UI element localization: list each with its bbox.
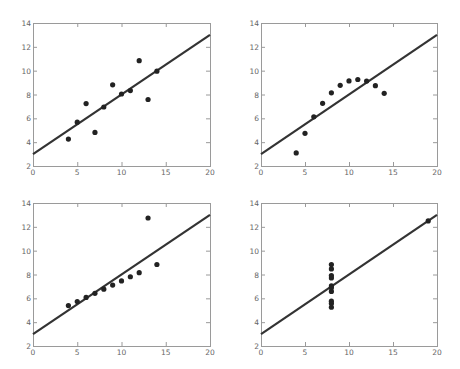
x-tick-label: 10 bbox=[117, 168, 127, 177]
y-tick-label: 2 bbox=[26, 342, 31, 351]
anscombe-quartet-figure: 051015202468101214 051015202468101214 05… bbox=[0, 0, 460, 369]
x-tick-label: 5 bbox=[303, 348, 308, 357]
x-tick-label: 0 bbox=[31, 348, 36, 357]
data-point bbox=[329, 301, 334, 306]
y-tick-label: 12 bbox=[249, 223, 259, 232]
data-point bbox=[373, 83, 378, 88]
data-point bbox=[66, 136, 71, 141]
x-tick-label: 0 bbox=[259, 348, 264, 357]
x-tick-label: 10 bbox=[344, 348, 354, 357]
data-point bbox=[346, 78, 351, 83]
y-tick-label: 4 bbox=[26, 138, 31, 147]
x-tick-label: 15 bbox=[161, 168, 171, 177]
y-tick-label: 14 bbox=[249, 19, 259, 28]
data-point bbox=[92, 130, 97, 135]
data-point bbox=[355, 77, 360, 82]
x-tick-label: 0 bbox=[259, 168, 264, 177]
regression-line bbox=[261, 35, 437, 154]
x-tick-label: 20 bbox=[432, 348, 442, 357]
data-point bbox=[154, 262, 159, 267]
data-point bbox=[329, 273, 334, 278]
data-point bbox=[110, 283, 115, 288]
y-tick-label: 14 bbox=[249, 199, 259, 208]
data-point bbox=[329, 90, 334, 95]
y-tick-label: 10 bbox=[21, 67, 31, 76]
data-point bbox=[364, 78, 369, 83]
x-tick-label: 15 bbox=[388, 168, 398, 177]
x-tick-label: 20 bbox=[205, 168, 215, 177]
data-point bbox=[311, 114, 316, 119]
data-point bbox=[302, 131, 307, 136]
data-point bbox=[329, 285, 334, 290]
x-tick-label: 5 bbox=[75, 348, 80, 357]
data-point bbox=[110, 82, 115, 87]
y-tick-label: 8 bbox=[26, 271, 31, 280]
x-tick-label: 20 bbox=[432, 168, 442, 177]
y-tick-label: 4 bbox=[254, 138, 259, 147]
data-point bbox=[128, 274, 133, 279]
y-tick-label: 6 bbox=[254, 114, 259, 123]
x-tick-label: 10 bbox=[117, 348, 127, 357]
x-tick-label: 15 bbox=[388, 348, 398, 357]
scatter-panel-4: 051015202468101214 bbox=[249, 199, 442, 357]
data-point bbox=[382, 91, 387, 96]
y-tick-label: 6 bbox=[26, 294, 31, 303]
x-tick-label: 15 bbox=[161, 348, 171, 357]
data-point bbox=[145, 97, 150, 102]
data-point bbox=[119, 278, 124, 283]
data-point bbox=[128, 88, 133, 93]
data-point bbox=[145, 215, 150, 220]
y-tick-label: 6 bbox=[254, 294, 259, 303]
data-point bbox=[329, 266, 334, 271]
scatter-panel-3: 051015202468101214 bbox=[21, 199, 215, 357]
data-point bbox=[75, 120, 80, 125]
data-point bbox=[66, 303, 71, 308]
data-point bbox=[101, 287, 106, 292]
scatter-panel-2: 051015202468101214 bbox=[249, 19, 442, 177]
y-tick-label: 6 bbox=[26, 114, 31, 123]
data-point bbox=[137, 270, 142, 275]
data-point bbox=[75, 299, 80, 304]
y-tick-label: 10 bbox=[249, 247, 259, 256]
data-point bbox=[154, 69, 159, 74]
data-point bbox=[320, 101, 325, 106]
data-point bbox=[92, 291, 97, 296]
y-tick-label: 8 bbox=[254, 91, 259, 100]
regression-line bbox=[33, 215, 210, 334]
y-tick-label: 12 bbox=[21, 223, 31, 232]
data-point bbox=[338, 83, 343, 88]
data-point bbox=[426, 218, 431, 223]
x-tick-label: 5 bbox=[75, 168, 80, 177]
y-tick-label: 8 bbox=[254, 271, 259, 280]
data-point bbox=[101, 104, 106, 109]
y-tick-label: 12 bbox=[249, 43, 259, 52]
y-tick-label: 2 bbox=[26, 162, 31, 171]
scatter-panel-1: 051015202468101214 bbox=[21, 19, 215, 177]
data-point bbox=[137, 58, 142, 63]
data-point bbox=[84, 101, 89, 106]
y-tick-label: 8 bbox=[26, 91, 31, 100]
y-tick-label: 10 bbox=[21, 247, 31, 256]
x-tick-label: 5 bbox=[303, 168, 308, 177]
y-tick-label: 2 bbox=[254, 162, 259, 171]
x-tick-label: 20 bbox=[205, 348, 215, 357]
data-point bbox=[294, 150, 299, 155]
y-tick-label: 14 bbox=[21, 19, 31, 28]
y-tick-label: 4 bbox=[254, 318, 259, 327]
regression-line bbox=[261, 215, 437, 334]
x-tick-label: 10 bbox=[344, 168, 354, 177]
data-point bbox=[119, 91, 124, 96]
data-point bbox=[84, 295, 89, 300]
x-tick-label: 0 bbox=[31, 168, 36, 177]
y-tick-label: 4 bbox=[26, 318, 31, 327]
y-tick-label: 10 bbox=[249, 67, 259, 76]
y-tick-label: 14 bbox=[21, 199, 31, 208]
y-tick-label: 12 bbox=[21, 43, 31, 52]
y-tick-label: 2 bbox=[254, 342, 259, 351]
